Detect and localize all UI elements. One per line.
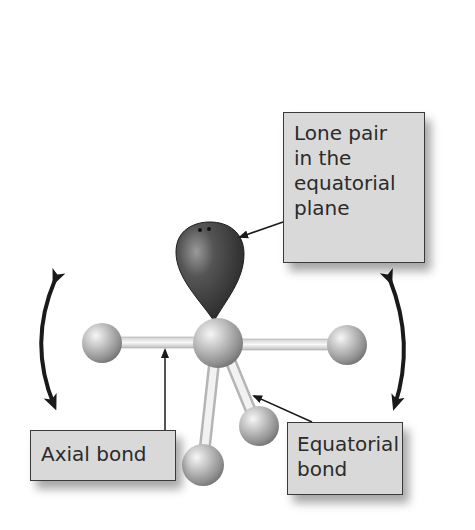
lone-pair-pointer: [240, 222, 283, 237]
atom-central: [193, 318, 243, 368]
axial-bond-label: Axial bond: [30, 430, 176, 481]
lone-pair-lobe: [176, 222, 244, 321]
axial-bond-label-text: Axial bond: [41, 442, 165, 467]
lone-pair-label: Lone pair in the equatorial plane: [283, 112, 425, 263]
equatorial-bond-label: Equatorial bond: [287, 422, 403, 495]
atom-equatorial-front: [239, 406, 279, 446]
equatorial-bond-label-line: bond: [297, 457, 393, 482]
axial-bond-right: [230, 339, 340, 350]
left-curved-double-arrow: [41, 280, 55, 405]
right-curved-double-arrow: [390, 280, 404, 405]
lone-pair-label-line: equatorial: [294, 171, 414, 196]
atom-axial-left: [82, 323, 122, 363]
equatorial-bond-label-line: Equatorial: [297, 432, 393, 457]
lone-pair-label-line: plane: [294, 196, 414, 221]
electron-dot: [207, 227, 211, 231]
lone-pair-label-line: in the: [294, 146, 414, 171]
atom-equatorial-lower: [182, 444, 224, 486]
electron-dot: [198, 228, 202, 232]
lone-pair-label-line: Lone pair: [294, 121, 414, 146]
atom-axial-right: [327, 325, 367, 365]
